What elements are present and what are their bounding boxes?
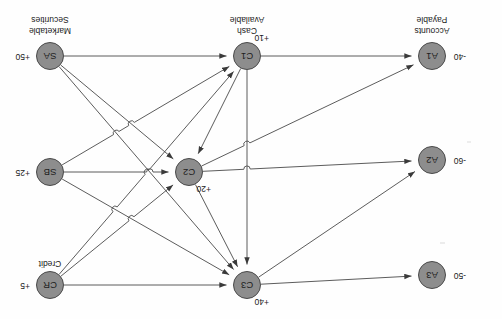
edge-c3-a3: [261, 276, 412, 284]
node-caption-cr: Credit: [10, 258, 90, 269]
edge-cr-c1: [59, 72, 234, 275]
edge-c2-a1: [202, 65, 414, 166]
node-a3[interactable]: A3: [418, 261, 446, 289]
node-caption-c1: CashAvailable: [207, 14, 287, 36]
node-amount-a2: -60: [454, 156, 466, 166]
node-amount-c2: +20: [197, 184, 211, 194]
node-amount-a3: -50: [454, 271, 466, 281]
paper-speck-1: [440, 242, 445, 244]
node-amount-cr: +5: [20, 281, 30, 291]
edge-c2-c3: [195, 185, 237, 267]
node-label: CR: [43, 280, 57, 290]
node-label: SB: [43, 167, 56, 177]
node-c1[interactable]: C1: [233, 42, 261, 70]
node-sb[interactable]: SB: [36, 158, 64, 186]
node-cr[interactable]: CR: [36, 271, 64, 299]
node-c2[interactable]: C2: [175, 158, 203, 186]
node-a1[interactable]: A1: [418, 42, 446, 70]
node-label: C3: [241, 280, 254, 290]
edge-sb-c2: [64, 169, 169, 172]
node-amount-sb: +25: [16, 168, 30, 178]
node-label: SA: [43, 51, 56, 61]
node-c3[interactable]: C3: [233, 271, 261, 299]
node-caption-a1: AccountsPayable: [392, 14, 472, 36]
node-label: A3: [426, 270, 438, 280]
node-a2[interactable]: A2: [418, 146, 446, 174]
node-label: C2: [183, 167, 196, 177]
edge-sb-c1: [62, 66, 229, 165]
node-sa[interactable]: SA: [36, 42, 64, 70]
node-label: A1: [426, 51, 438, 61]
node-label: C1: [241, 51, 254, 61]
paper-speck-2: [467, 141, 471, 143]
node-amount-c3: +40: [255, 297, 269, 307]
edge-sa-c2: [61, 65, 174, 159]
edge-sa-c3: [59, 67, 234, 270]
node-amount-sa: +50: [16, 52, 30, 62]
node-caption-sa: MarketableSecurities: [10, 14, 90, 36]
edge-c2-a2: [203, 161, 412, 171]
diagram-canvas: A3-50A2-60A1-40AccountsPayableC3+40C2+20…: [0, 0, 502, 319]
node-label: A2: [426, 155, 438, 165]
edge-c3-a2: [259, 172, 415, 278]
node-amount-a1: -40: [454, 52, 466, 62]
